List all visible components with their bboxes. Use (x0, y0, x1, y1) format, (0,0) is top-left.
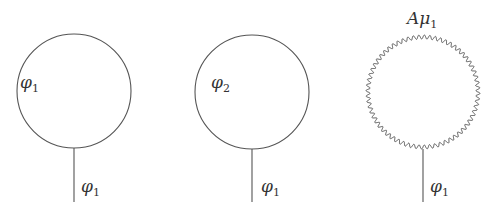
diagram-1 (17, 34, 131, 202)
loop-label-1: φ1 (20, 74, 39, 94)
leg-label-3: φ1 (430, 178, 449, 198)
leg-label-2: φ1 (261, 178, 280, 198)
gauge-loop-wavy (366, 35, 480, 149)
diagram-2 (195, 35, 309, 202)
loop-label-2: φ2 (211, 74, 230, 94)
feynman-diagrams-canvas (0, 0, 502, 219)
loop-label-3: Aμ1 (407, 10, 437, 30)
diagram-3 (366, 35, 480, 202)
leg-label-1: φ1 (81, 178, 100, 198)
